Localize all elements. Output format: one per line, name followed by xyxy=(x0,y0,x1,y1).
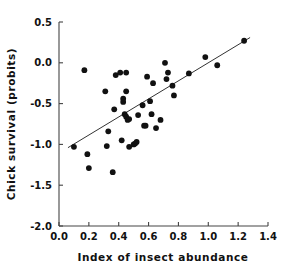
y-tick-label-3: -1.0 xyxy=(30,139,52,150)
data-point xyxy=(158,117,164,123)
x-tick-label-6: 1.2 xyxy=(229,231,247,242)
data-point xyxy=(153,125,159,131)
x-tick-label-2: 0.4 xyxy=(110,231,128,242)
x-tick-label-1: 0.2 xyxy=(80,231,98,242)
scatter-plot-figure: 0.00.20.40.60.81.01.21.4 0.50.0-0.5-1.0-… xyxy=(0,0,287,277)
data-point xyxy=(149,111,155,117)
data-point xyxy=(117,70,123,76)
data-point xyxy=(186,71,192,77)
data-point xyxy=(126,116,132,122)
data-point xyxy=(86,165,92,171)
data-point xyxy=(171,93,177,99)
data-point xyxy=(71,144,77,150)
data-point xyxy=(164,76,170,82)
data-point xyxy=(102,88,108,94)
x-axis-title: Index of insect abundance xyxy=(77,251,248,263)
data-point xyxy=(144,74,150,80)
data-point xyxy=(135,112,141,118)
y-tick-label-1: 0.0 xyxy=(34,57,52,68)
data-point xyxy=(147,98,153,104)
chart-canvas: 0.00.20.40.60.81.01.21.4 0.50.0-0.5-1.0-… xyxy=(0,0,287,277)
data-point xyxy=(123,70,129,76)
data-point xyxy=(134,139,140,145)
x-tick-label-5: 1.0 xyxy=(199,231,217,242)
data-point xyxy=(214,62,220,68)
data-point xyxy=(81,67,87,73)
data-point xyxy=(165,70,171,76)
x-tick-label-4: 0.8 xyxy=(170,231,188,242)
x-tick-label-0: 0.0 xyxy=(50,231,68,242)
data-point xyxy=(120,99,126,105)
data-point xyxy=(123,88,129,94)
x-tick-label-3: 0.6 xyxy=(140,231,158,242)
data-point xyxy=(105,128,111,134)
data-point xyxy=(202,54,208,60)
data-point xyxy=(119,137,125,143)
x-tick-label-7: 1.4 xyxy=(259,231,277,242)
data-point xyxy=(150,80,156,86)
data-point xyxy=(84,151,90,157)
data-point xyxy=(104,143,110,149)
data-point xyxy=(110,169,116,175)
data-point xyxy=(241,38,247,44)
y-tick-label-5: -2.0 xyxy=(30,221,52,232)
y-tick-label-4: -1.5 xyxy=(30,180,52,191)
data-point xyxy=(111,106,117,112)
data-point xyxy=(170,83,176,89)
y-tick-label-0: 0.5 xyxy=(34,17,52,28)
data-point xyxy=(162,60,168,66)
data-point xyxy=(143,123,149,129)
data-point xyxy=(140,102,146,108)
y-tick-label-2: -0.5 xyxy=(30,98,52,109)
y-axis-title: Chick survival (probits) xyxy=(5,48,17,200)
